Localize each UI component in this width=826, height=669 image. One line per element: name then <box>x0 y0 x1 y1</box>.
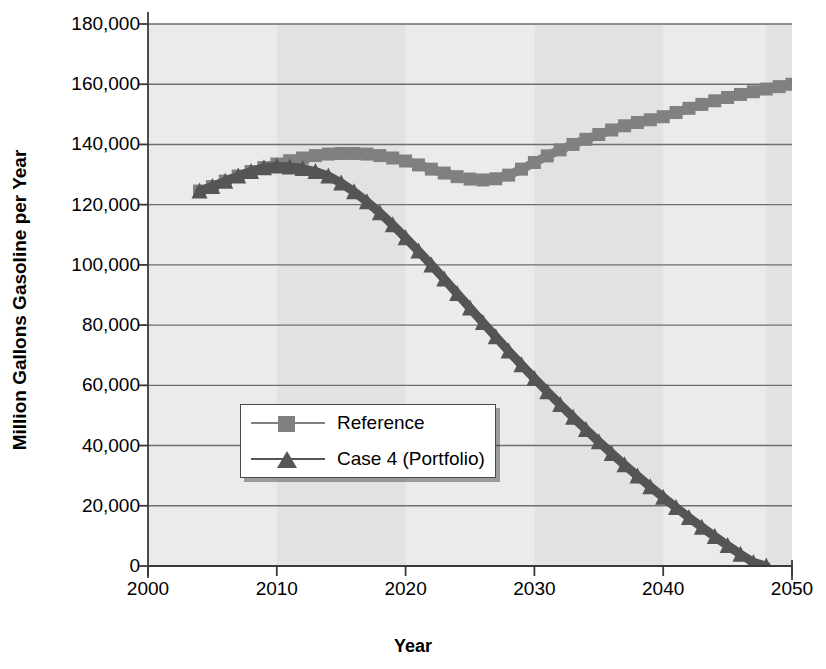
x-axis-title: Year <box>0 636 826 657</box>
x-tick-label: 2040 <box>642 578 684 600</box>
legend-square-marker-icon <box>251 411 325 435</box>
legend-label: Reference <box>337 412 425 434</box>
x-tick-label: 2010 <box>256 578 298 600</box>
x-tick-label: 2000 <box>127 578 169 600</box>
chart-legend: ReferenceCase 4 (Portfolio) <box>240 404 496 478</box>
x-tick-label: 2030 <box>513 578 555 600</box>
legend-label: Case 4 (Portfolio) <box>337 448 485 470</box>
gasoline-consumption-chart: Million Gallons Gasoline per Year 020,00… <box>0 0 826 669</box>
plot-area <box>0 0 826 669</box>
legend-item-1: Reference <box>241 405 495 441</box>
legend-triangle-marker-icon <box>251 447 325 471</box>
x-tick-label: 2020 <box>384 578 426 600</box>
legend-item-2: Case 4 (Portfolio) <box>241 441 495 477</box>
x-tick-label: 2050 <box>771 578 813 600</box>
